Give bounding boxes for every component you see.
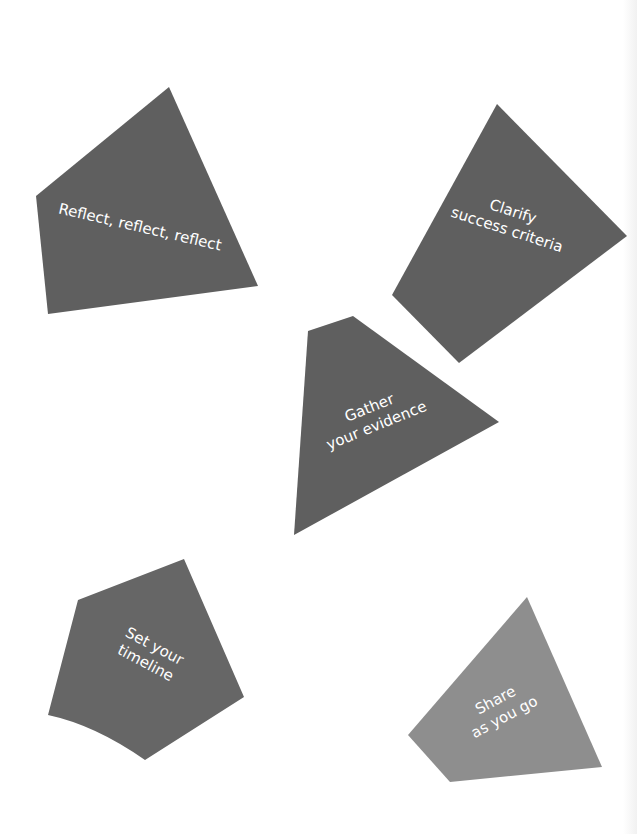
diagram-canvas xyxy=(0,0,637,834)
